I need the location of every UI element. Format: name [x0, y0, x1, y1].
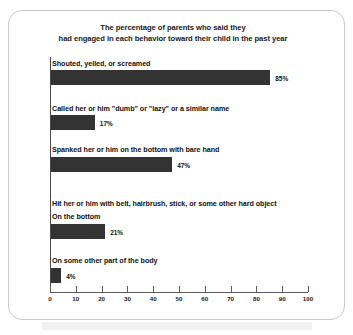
x-axis-tick-label: 20	[98, 295, 105, 302]
bar-value-label: 21%	[110, 229, 123, 236]
x-axis-tick	[102, 286, 103, 292]
bar	[51, 70, 270, 85]
bar-category-label: Spanked her or him on the bottom with ba…	[52, 145, 219, 154]
x-axis-line	[50, 292, 308, 293]
x-axis-tick	[179, 286, 180, 292]
plot-area: 0102030405060708090100Shouted, yelled, o…	[0, 0, 353, 335]
bar	[51, 224, 105, 239]
bar-category-label: On some other part of the body	[52, 256, 158, 265]
bar-value-label: 47%	[177, 162, 190, 169]
x-axis-tick-label: 40	[150, 295, 157, 302]
x-axis-tick	[76, 286, 77, 292]
bar-category-label: On the bottom	[52, 212, 100, 221]
bar	[51, 157, 172, 172]
x-axis-tick	[308, 286, 309, 292]
bar-value-label: 4%	[66, 273, 75, 280]
x-axis-tick	[205, 286, 206, 292]
x-axis-tick	[282, 286, 283, 292]
y-axis-baseline	[50, 57, 51, 293]
bar	[51, 115, 95, 130]
figure: The percentage of parents who said they …	[0, 0, 353, 335]
x-axis-tick-label: 70	[227, 295, 234, 302]
bar-value-label: 17%	[100, 120, 113, 127]
x-axis-tick	[153, 286, 154, 292]
bar-category-label: Shouted, yelled, or screamed	[52, 59, 150, 68]
x-axis-tick	[127, 286, 128, 292]
x-axis-tick-label: 90	[279, 295, 286, 302]
x-axis-tick-label: 0	[48, 295, 51, 302]
x-axis-tick-label: 50	[176, 295, 183, 302]
bar-category-label: Called her or him "dumb" or "lazy" or a …	[52, 104, 229, 113]
x-axis-tick-label: 10	[72, 295, 79, 302]
x-axis-tick	[231, 286, 232, 292]
x-axis-tick-label: 60	[201, 295, 208, 302]
x-axis-tick-label: 100	[303, 295, 313, 302]
bar	[51, 268, 61, 283]
x-axis-tick	[50, 286, 51, 292]
group-heading-label: Hit her or him with belt, hairbrush, sti…	[52, 199, 277, 208]
x-axis-tick	[256, 286, 257, 292]
bar-value-label: 85%	[275, 75, 288, 82]
x-axis-tick-label: 80	[253, 295, 260, 302]
x-axis-tick-label: 30	[124, 295, 131, 302]
